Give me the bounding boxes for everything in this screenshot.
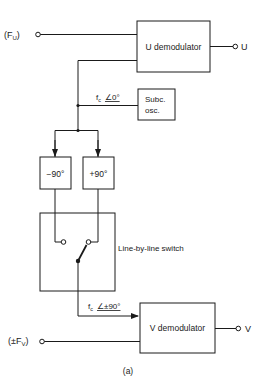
minus90-shifter-block: −90° xyxy=(40,157,71,189)
svg-text:Subc.: Subc. xyxy=(145,95,165,104)
output-terminal-u xyxy=(233,44,238,49)
switch-contact-plus90 xyxy=(86,240,91,245)
svg-text:osc.: osc. xyxy=(145,106,160,115)
output-label-v: V xyxy=(245,324,251,334)
input-terminal-fv xyxy=(40,339,45,344)
u-demodulator-label: U demodulator xyxy=(146,42,202,52)
output-label-u: U xyxy=(241,42,248,52)
switch-label: Line-by-line switch xyxy=(118,244,184,253)
input-label-fu: (FU) xyxy=(4,30,20,41)
v-demodulator-label: V demodulator xyxy=(150,323,205,333)
u-demodulator-block: U demodulator xyxy=(137,21,210,72)
figure-caption: (a) xyxy=(123,366,134,376)
switch-contact-minus90 xyxy=(61,240,66,245)
input-terminal-fu xyxy=(36,32,41,37)
v-demodulator-block: V demodulator xyxy=(140,303,215,353)
wire-split xyxy=(55,131,98,158)
plus90-shifter-block: +90° xyxy=(83,157,114,189)
svg-text:+90°: +90° xyxy=(90,169,108,179)
signal-label-fc-0: fc∠0° xyxy=(96,93,120,103)
output-terminal-v xyxy=(236,326,241,331)
signal-label-fc-pm90: fc∠±90° xyxy=(88,302,120,312)
input-label-fv: (±FV) xyxy=(8,336,28,347)
subcarrier-oscillator-block: Subc. osc. xyxy=(138,89,175,120)
junction-dot-1 xyxy=(76,104,79,107)
svg-text:−90°: −90° xyxy=(47,169,65,179)
block-diagram: (FU) U demodulator U fc∠0° Subc. osc. −9… xyxy=(0,0,270,392)
